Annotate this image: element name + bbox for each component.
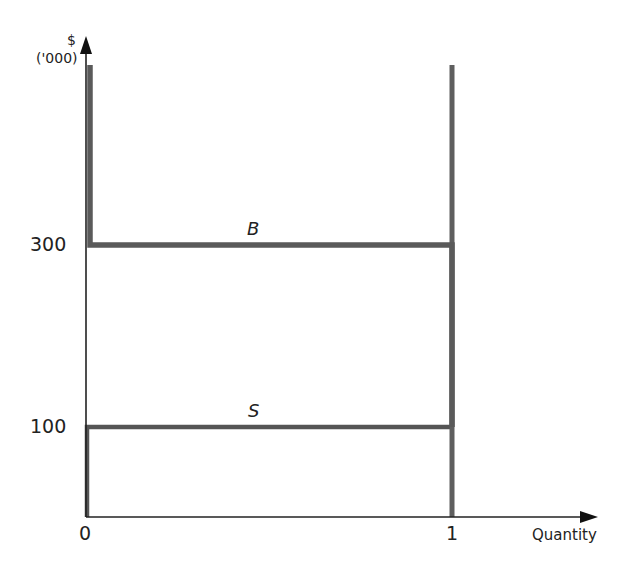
y-tick-100: 100 [30,415,66,437]
x-tick-1: 1 [446,522,458,544]
chart-canvas [0,0,630,575]
s-curve [87,65,452,517]
x-axis [86,511,598,523]
y-axis-unit-symbol: $ [67,32,76,48]
s-curve-label: S [248,400,259,421]
y-tick-300: 300 [30,233,66,255]
x-axis-arrow-icon [580,511,598,523]
x-tick-0: 0 [79,522,91,544]
x-axis-label: Quantity [532,526,597,544]
y-axis-unit-scale: ('000) [36,50,78,66]
y-axis-arrow-icon [80,36,92,54]
b-curve [90,65,452,427]
b-curve-label: B [247,218,259,239]
